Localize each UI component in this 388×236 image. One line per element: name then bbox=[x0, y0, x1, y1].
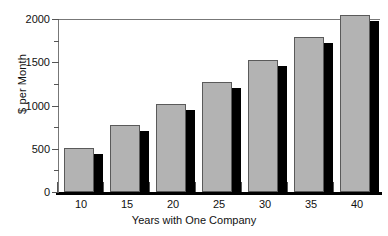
y-tick-label: 500 bbox=[16, 144, 50, 155]
y-tick-label: 0 bbox=[16, 187, 50, 198]
bar-shadow bbox=[140, 131, 149, 195]
y-tick-major bbox=[52, 149, 59, 150]
bar bbox=[64, 148, 94, 192]
bar bbox=[156, 104, 186, 192]
x-tick-label: 10 bbox=[75, 198, 87, 210]
bar-shadow bbox=[278, 66, 287, 195]
x-tick bbox=[57, 182, 58, 192]
x-tick-label: 35 bbox=[305, 198, 317, 210]
bar-shadow bbox=[94, 154, 103, 195]
x-tick-label: 30 bbox=[259, 198, 271, 210]
x-axis-tick-labels: 10152025303540 bbox=[0, 198, 388, 212]
axis-bottom-baseline bbox=[56, 192, 382, 195]
bar-shadow bbox=[232, 88, 241, 195]
y-tick-major bbox=[52, 192, 59, 193]
x-tick bbox=[241, 182, 242, 192]
x-tick bbox=[149, 182, 150, 192]
y-tick-minor bbox=[54, 170, 59, 171]
x-tick bbox=[333, 182, 334, 192]
x-tick-label: 20 bbox=[167, 198, 179, 210]
bar-shadow bbox=[324, 43, 333, 195]
x-tick bbox=[103, 182, 104, 192]
bar-chart: $ per Month 0500100015002000 10152025303… bbox=[0, 0, 388, 236]
y-tick-minor bbox=[54, 84, 59, 85]
bar bbox=[294, 37, 324, 192]
bar bbox=[110, 125, 140, 192]
y-tick-minor bbox=[54, 41, 59, 42]
y-tick-major bbox=[52, 62, 59, 63]
plot-area bbox=[58, 19, 380, 192]
y-tick-label: 2000 bbox=[16, 14, 50, 25]
x-axis-title: Years with One Company bbox=[0, 214, 388, 226]
axis-top-line bbox=[58, 19, 380, 20]
x-tick bbox=[287, 182, 288, 192]
x-tick-label: 40 bbox=[351, 198, 363, 210]
y-tick-minor bbox=[54, 127, 59, 128]
bar bbox=[340, 15, 370, 192]
x-tick-label: 15 bbox=[121, 198, 133, 210]
bar-shadow bbox=[186, 110, 195, 195]
x-tick bbox=[195, 182, 196, 192]
y-tick-major bbox=[52, 19, 59, 20]
bar bbox=[248, 60, 278, 192]
bar bbox=[202, 82, 232, 192]
y-tick-label: 1500 bbox=[16, 57, 50, 68]
y-tick-label: 1000 bbox=[16, 101, 50, 112]
x-tick-label: 25 bbox=[213, 198, 225, 210]
y-tick-major bbox=[52, 106, 59, 107]
bar-shadow bbox=[370, 21, 379, 195]
